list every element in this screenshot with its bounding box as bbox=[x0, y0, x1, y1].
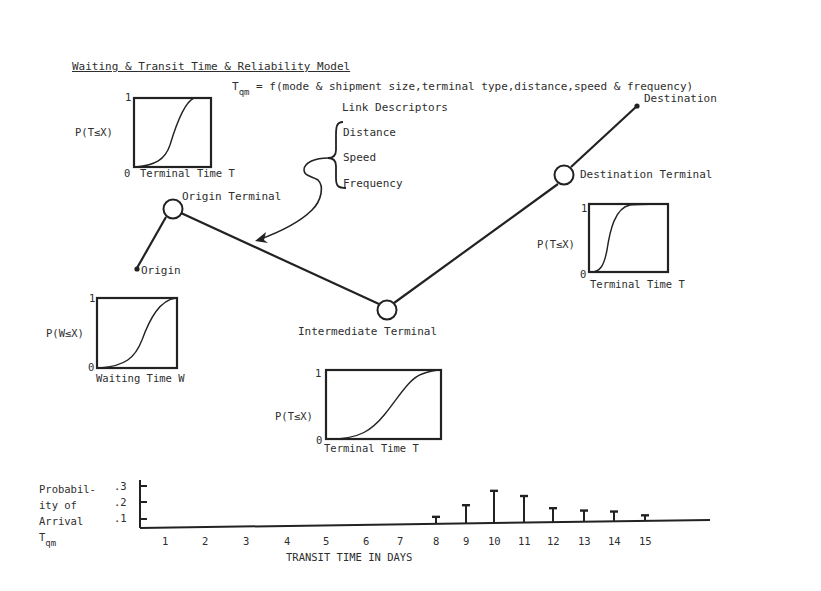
destination-terminal-node bbox=[555, 166, 574, 185]
edge-intermediate-to-destination-terminal bbox=[394, 184, 558, 303]
intermediate-terminal-label: Intermediate Terminal bbox=[298, 325, 437, 338]
cdf-waiting-ybottom: 0 bbox=[88, 361, 94, 373]
cdf-destination-terminal-panel bbox=[589, 204, 668, 272]
chart-ytick-label-0.3: .3 bbox=[114, 480, 127, 492]
cdf-waiting-panel bbox=[97, 298, 177, 368]
chart-x-tick-label: 7 bbox=[397, 535, 403, 547]
destination-terminal-label: Destination Terminal bbox=[580, 168, 712, 181]
cdf-waiting-ytop: 1 bbox=[89, 292, 95, 304]
chart-x-tick-label: 3 bbox=[243, 535, 249, 547]
chart-x-tick-label: 9 bbox=[463, 535, 469, 547]
origin-terminal-node bbox=[164, 200, 183, 219]
edge-destination-terminal-to-destination bbox=[571, 106, 637, 167]
chart-x-tick-label: 10 bbox=[488, 535, 501, 547]
chart-ylabel-line-3: Arrival bbox=[39, 515, 83, 527]
chart-xlabel: TRANSIT TIME IN DAYS bbox=[286, 551, 412, 563]
chart-ylabel-line-2: ity of bbox=[39, 499, 77, 511]
cdf-intermediate-ytop: 1 bbox=[315, 367, 321, 379]
chart-x-tick-label: 4 bbox=[284, 535, 290, 547]
edge-origin-terminal-to-intermediate bbox=[181, 213, 379, 304]
cdf-destination-ybottom: 0 bbox=[580, 268, 586, 280]
cdf-intermediate-xlabel: Terminal Time T bbox=[324, 442, 419, 454]
chart-x-tick-label: 2 bbox=[202, 535, 208, 547]
cdf-intermediate-ylabel: P(T≤X) bbox=[275, 410, 313, 422]
cdf-intermediate-ybottom: 0 bbox=[316, 434, 322, 446]
cdf-origin-terminal-ybottom: 0 bbox=[124, 167, 130, 179]
chart-x-tick-label: 5 bbox=[323, 535, 329, 547]
cdf-waiting-ylabel: P(W≤X) bbox=[46, 327, 84, 339]
chart-ytick-label-0.2: .2 bbox=[114, 496, 127, 508]
chart-x-tick-label: 1 bbox=[162, 535, 168, 547]
cdf-intermediate-terminal-panel bbox=[326, 370, 441, 439]
chart-x-tick-label: 11 bbox=[518, 535, 531, 547]
destination-label: Destination bbox=[644, 92, 717, 105]
cdf-origin-terminal-panel bbox=[134, 98, 211, 167]
chart-x-tick-label: 6 bbox=[363, 535, 369, 547]
chart-x-tick-label: 14 bbox=[608, 535, 621, 547]
cdf-origin-terminal-ytop: 1 bbox=[125, 91, 131, 103]
cdf-destination-xlabel: Terminal Time T bbox=[590, 278, 685, 290]
edge-origin-to-origin-terminal bbox=[137, 217, 166, 268]
destination-dot bbox=[634, 103, 639, 108]
cdf-destination-ylabel: P(T≤X) bbox=[537, 238, 575, 250]
cdf-destination-ytop: 1 bbox=[581, 202, 587, 214]
chart-ylabel-line-1: Probabil- bbox=[39, 483, 96, 495]
chart-ytick-label-0.1: .1 bbox=[114, 512, 127, 524]
chart-ylabel-line-4: Tqm bbox=[39, 531, 56, 543]
cdf-origin-terminal-xlabel: Terminal Time T bbox=[140, 167, 235, 179]
link-descriptors-brace bbox=[328, 122, 346, 188]
chart-x-tick-label: 15 bbox=[639, 535, 652, 547]
cdf-waiting-xlabel: Waiting Time W bbox=[96, 372, 185, 384]
cdf-origin-terminal-ylabel: P(T≤X) bbox=[75, 126, 113, 138]
arrival-probability-chart bbox=[140, 480, 710, 528]
origin-label: Origin bbox=[141, 264, 181, 277]
chart-x-tick-label: 8 bbox=[433, 535, 439, 547]
chart-x-tick-label: 13 bbox=[578, 535, 591, 547]
intermediate-terminal-node bbox=[378, 301, 397, 320]
origin-dot bbox=[134, 266, 139, 271]
chart-x-tick-label: 12 bbox=[547, 535, 560, 547]
origin-terminal-label: Origin Terminal bbox=[182, 190, 281, 203]
